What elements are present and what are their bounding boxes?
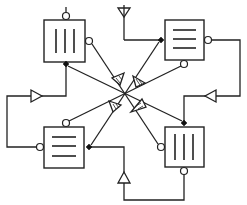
tl-right-port bbox=[86, 38, 93, 45]
block-bottom-left bbox=[37, 120, 93, 169]
tri-bottom-amplifier-icon bbox=[118, 172, 130, 183]
block-top-left bbox=[44, 13, 93, 68]
arrowhead-upper-right bbox=[133, 76, 145, 87]
tl-top-port bbox=[63, 13, 70, 20]
tr-right-port bbox=[205, 37, 212, 44]
bl-left-port bbox=[37, 144, 44, 151]
block-diagram bbox=[0, 0, 247, 205]
br-bottom-port bbox=[181, 168, 188, 175]
arrowhead-upper-left bbox=[112, 73, 124, 85]
block-bottom-right bbox=[158, 120, 205, 175]
tri-right-amplifier-icon bbox=[205, 90, 216, 102]
tri-left-amplifier-icon bbox=[31, 90, 42, 102]
antenna-icon bbox=[118, 5, 130, 40]
br-left-port bbox=[158, 144, 165, 151]
block-top-right bbox=[158, 20, 212, 68]
bl-top-port bbox=[63, 120, 70, 127]
tr-bottom-port bbox=[181, 61, 188, 68]
